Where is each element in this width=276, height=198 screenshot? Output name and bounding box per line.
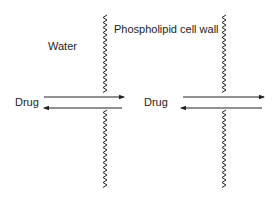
drug-label-right: Drug [144,97,168,108]
drug-label-left: Drug [15,97,39,108]
water-label: Water [48,41,77,52]
membrane-2-upper-zigzag [222,15,226,93]
membrane-1-upper-zigzag [103,15,107,93]
membrane-1-lower-zigzag [103,110,107,188]
membrane-label: Phospholipid cell wall [114,24,219,35]
membrane-2-lower-zigzag [222,110,226,188]
